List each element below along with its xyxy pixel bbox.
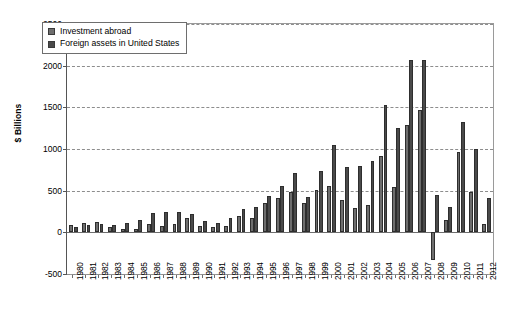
bar bbox=[431, 232, 435, 260]
bar bbox=[384, 105, 388, 233]
bar bbox=[138, 220, 142, 232]
bar bbox=[289, 192, 293, 233]
bar-group bbox=[67, 24, 80, 274]
bar-group bbox=[106, 24, 119, 274]
x-tick-mark bbox=[331, 275, 332, 278]
x-tick-mark bbox=[227, 275, 228, 278]
bar bbox=[315, 190, 319, 232]
bar bbox=[237, 216, 241, 233]
x-tick-label: 1993 bbox=[243, 262, 252, 280]
x-tick-mark bbox=[395, 275, 396, 278]
bar bbox=[190, 214, 194, 233]
x-tick-mark bbox=[85, 275, 86, 278]
bar-group bbox=[222, 24, 235, 274]
bar-group bbox=[403, 24, 416, 274]
bar bbox=[151, 213, 155, 232]
bar bbox=[267, 196, 271, 233]
bar bbox=[306, 197, 310, 232]
x-tick-label: 1997 bbox=[295, 262, 304, 280]
x-tick-mark bbox=[279, 275, 280, 278]
bar bbox=[177, 212, 181, 233]
x-tick-label: 1986 bbox=[153, 262, 162, 280]
bar bbox=[69, 225, 73, 232]
bar bbox=[125, 223, 129, 233]
bar-group bbox=[286, 24, 299, 274]
bar-group bbox=[183, 24, 196, 274]
x-tick-label: 2011 bbox=[476, 263, 485, 280]
bar bbox=[469, 192, 473, 232]
x-tick-mark bbox=[460, 275, 461, 278]
legend-entry: Investment abroad bbox=[48, 27, 179, 36]
bar bbox=[250, 218, 254, 233]
plot-area: -50005001000150020002500 bbox=[66, 23, 494, 275]
x-tick-mark bbox=[434, 275, 435, 278]
y-tick-label: -500 bbox=[45, 269, 62, 279]
bar-group bbox=[170, 24, 183, 274]
y-tick-label: 1500 bbox=[43, 102, 62, 112]
bar bbox=[435, 195, 439, 233]
x-tick-label: 2009 bbox=[450, 262, 459, 280]
x-axis: 1980198119821983198419851986198719881989… bbox=[66, 275, 494, 312]
bar bbox=[358, 166, 362, 232]
bar bbox=[366, 205, 370, 232]
x-tick-label: 1989 bbox=[192, 262, 201, 280]
bar-group bbox=[467, 24, 480, 274]
bar-group bbox=[390, 24, 403, 274]
bar-group bbox=[157, 24, 170, 274]
y-tick-label: 0 bbox=[57, 227, 62, 237]
legend-swatch-icon bbox=[48, 28, 55, 35]
bar bbox=[448, 207, 452, 233]
x-tick-mark bbox=[98, 275, 99, 278]
x-tick-mark bbox=[72, 275, 73, 278]
bar bbox=[276, 198, 280, 232]
x-tick-label: 1984 bbox=[127, 262, 136, 280]
bar bbox=[327, 186, 331, 233]
bar-group bbox=[209, 24, 222, 274]
bar bbox=[319, 171, 323, 233]
bar bbox=[379, 156, 383, 232]
bar-group bbox=[235, 24, 248, 274]
bar bbox=[254, 207, 258, 233]
legend-swatch-icon bbox=[48, 41, 55, 48]
bars-layer bbox=[67, 24, 493, 274]
bar-group bbox=[93, 24, 106, 274]
x-tick-mark bbox=[214, 275, 215, 278]
bar-group bbox=[377, 24, 390, 274]
bar bbox=[461, 122, 465, 232]
bar-group bbox=[325, 24, 338, 274]
x-tick-mark bbox=[486, 275, 487, 278]
x-tick-label: 1995 bbox=[269, 262, 278, 280]
x-tick-mark bbox=[344, 275, 345, 278]
x-tick-label: 1988 bbox=[179, 262, 188, 280]
bar bbox=[263, 203, 267, 232]
bar bbox=[112, 225, 116, 232]
bar bbox=[332, 145, 336, 232]
x-tick-mark bbox=[369, 275, 370, 278]
legend-label: Foreign assets in United States bbox=[60, 39, 179, 48]
bar-group bbox=[119, 24, 132, 274]
bar bbox=[444, 220, 448, 232]
x-tick-mark bbox=[447, 275, 448, 278]
x-tick-label: 2000 bbox=[334, 262, 343, 280]
bar bbox=[396, 128, 400, 232]
bar bbox=[405, 125, 409, 232]
x-tick-label: 2008 bbox=[437, 262, 446, 280]
x-tick-label: 1994 bbox=[256, 262, 265, 280]
x-tick-label: 1992 bbox=[231, 262, 240, 280]
x-tick-mark bbox=[318, 275, 319, 278]
x-tick-mark bbox=[382, 275, 383, 278]
bar-group bbox=[338, 24, 351, 274]
bar bbox=[487, 198, 491, 233]
x-tick-mark bbox=[408, 275, 409, 278]
bar-group bbox=[416, 24, 429, 274]
x-tick-mark bbox=[137, 275, 138, 278]
bar-group bbox=[428, 24, 441, 274]
x-tick-label: 1981 bbox=[89, 262, 98, 280]
x-tick-label: 1982 bbox=[101, 262, 110, 280]
bar-group bbox=[441, 24, 454, 274]
bar-group bbox=[196, 24, 209, 274]
bar bbox=[198, 226, 202, 233]
bar-group bbox=[261, 24, 274, 274]
bar bbox=[147, 224, 151, 232]
bar bbox=[293, 173, 297, 232]
